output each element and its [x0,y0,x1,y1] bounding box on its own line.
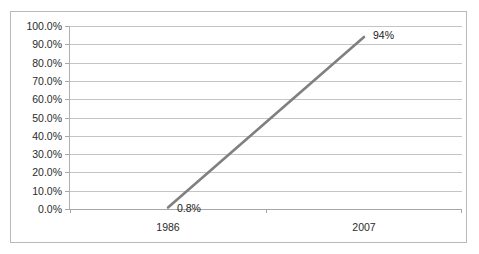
y-axis-tick-label: 80.0% [6,58,62,69]
x-axis-category-label-2007: 2007 [352,221,375,233]
y-axis-tick-label: 10.0% [6,186,62,197]
data-point-label-2007: 94% [373,29,394,41]
x-axis-category-label-1986: 1986 [156,221,179,233]
y-axis-tick-labels: 100.0% 90.0% 80.0% 70.0% 60.0% 50.0% 40.… [6,0,62,254]
y-axis-tick-label: 0.0% [6,204,62,215]
y-axis-tick-label: 40.0% [6,131,62,142]
y-axis-tick-label: 60.0% [6,94,62,105]
plot-area [70,26,462,209]
y-axis-tick-label: 70.0% [6,76,62,87]
chart-screenshot: 100.0% 90.0% 80.0% 70.0% 60.0% 50.0% 40.… [0,0,479,254]
y-axis-tick-label: 30.0% [6,149,62,160]
data-point-label-1986: 0.8% [177,202,201,214]
y-axis-tick-label: 90.0% [6,39,62,50]
series-line-chart [70,26,462,209]
y-axis-tick-label: 20.0% [6,167,62,178]
y-axis-tick-label: 50.0% [6,113,62,124]
series-line [168,37,364,208]
x-axis-line [70,209,462,210]
y-axis-tick-label: 100.0% [6,21,62,32]
